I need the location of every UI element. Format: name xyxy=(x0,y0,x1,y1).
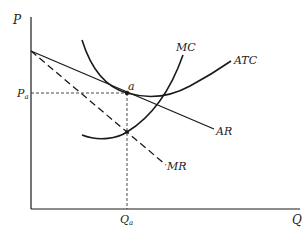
diagram-canvas: P Q MC ATC AR MR a Pa Qa xyxy=(0,0,305,236)
ar-label: AR xyxy=(216,126,232,137)
point-a-label: a xyxy=(128,81,135,92)
quantity-qa-label: Qa xyxy=(120,214,133,227)
atc-label: ATC xyxy=(234,55,257,66)
quantity-qa-sub: a xyxy=(129,219,133,227)
mr-curve xyxy=(31,51,166,165)
ar-curve xyxy=(31,51,214,129)
price-pa-label: Pa xyxy=(17,88,29,101)
diagram-svg xyxy=(0,0,305,236)
quantity-qa-main: Q xyxy=(120,213,129,226)
x-axis-label: Q xyxy=(292,214,302,226)
mc-mr-intersection-marker xyxy=(125,130,129,134)
mc-label: MC xyxy=(176,42,196,53)
atc-curve xyxy=(82,40,231,96)
price-pa-sub: a xyxy=(24,93,28,101)
mc-curve xyxy=(82,55,183,139)
mr-label: MR xyxy=(167,161,187,172)
y-axis-label: P xyxy=(13,14,21,26)
